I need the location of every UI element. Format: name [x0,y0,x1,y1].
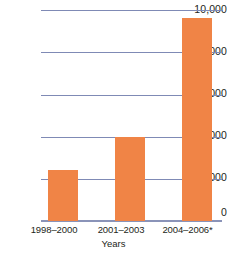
x-axis-tick-label-2004-2006: 2004–2006* [148,224,227,235]
bar-chart: 10,000 8,000 6,000 4,000 2,000 0 1998–20… [0,0,227,253]
bar-1998-2000 [48,170,78,221]
bar-2004-2006 [182,18,212,221]
plot-area [41,10,222,221]
x-axis-title: Years [0,238,227,249]
gridline-10000 [41,10,222,11]
bar-2001-2003 [115,137,145,221]
